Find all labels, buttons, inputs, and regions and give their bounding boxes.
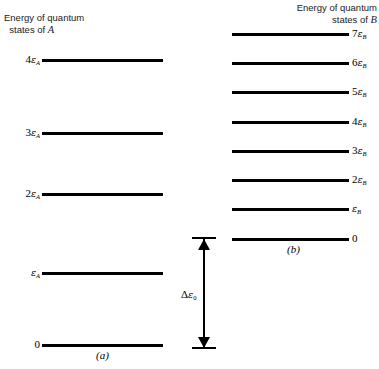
panel-a-header-line1: Energy of quantum [4,12,84,23]
level-label-b-0: 0 [352,233,358,244]
level-label-b-6: 6εB [352,57,367,69]
panel-b-header-symbol: B [371,14,377,25]
level-line-b-6 [232,62,349,65]
level-label-b-1: εB [352,203,361,215]
level-line-a-3 [42,132,163,135]
panel-b-header-line2: states of [332,14,368,25]
level-label-a-0: 0 [0,339,40,350]
level-line-b-4 [232,121,349,124]
level-line-a-4 [42,59,163,62]
level-label-a-3: 3εA [0,127,40,139]
level-label-b-2: 2εB [352,174,367,186]
level-label-a-4: 4εA [0,54,40,66]
energy-level-diagram: Energy of quantum states of A Energy of … [0,0,379,369]
level-label-a-2: 2εA [0,188,40,200]
gap-label: Δε0 [181,288,196,300]
level-line-a-1 [42,272,163,275]
level-line-a-2 [42,193,163,196]
level-label-a-1: εA [0,267,40,279]
level-label-b-5: 5εB [352,86,367,98]
panel-a-header-line2: states of [9,24,45,35]
gap-arrow-shaft [203,238,205,348]
panel-caption-b: (b) [287,243,300,255]
panel-b-header: Energy of quantum states of B [243,2,377,26]
level-label-b-4: 4εB [352,116,367,128]
level-line-b-3 [232,150,349,153]
panel-caption-a: (a) [96,349,109,361]
level-line-b-7 [232,33,349,36]
level-line-b-0 [232,238,349,241]
level-line-b-5 [232,91,349,94]
level-line-b-2 [232,179,349,182]
level-label-b-7: 7εB [352,28,367,40]
panel-a-header-symbol: A [48,24,54,35]
arrow-head-down-icon [198,337,210,348]
panel-b-header-line1: Energy of quantum [297,2,377,13]
panel-a-header: Energy of quantum states of A [4,12,84,36]
level-line-a-0 [42,344,163,347]
level-label-b-3: 3εB [352,145,367,157]
level-line-b-1 [232,208,349,211]
arrow-head-up-icon [198,239,210,250]
